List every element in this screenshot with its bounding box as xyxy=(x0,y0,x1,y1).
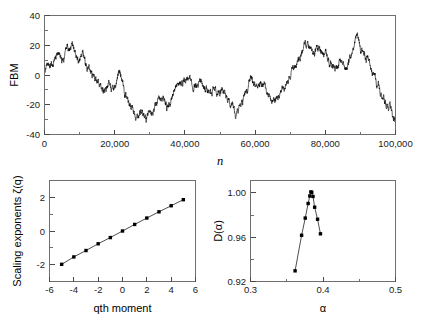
data-point xyxy=(60,263,63,266)
data-point xyxy=(293,269,296,272)
multifractal-figure: 40 20 0 -20 -40 0 20,000 40,000 xyxy=(0,0,421,334)
panel-fbm: 40 20 0 -20 -40 0 20,000 40,000 xyxy=(8,10,413,168)
zeta-ytick-2: 2 xyxy=(40,192,45,203)
fbm-yaxis-label: FBM xyxy=(8,63,20,86)
zeta-xtick-neg4: -4 xyxy=(70,284,78,295)
fbm-xtick-80000: 80,000 xyxy=(311,138,340,149)
fbm-ytick-0: 0 xyxy=(35,70,40,81)
dalpha-xtick-04: 0.4 xyxy=(316,284,329,295)
fbm-xtick-100000: 100,000 xyxy=(378,138,412,149)
data-point xyxy=(304,216,307,219)
dalpha-xaxis-label: α xyxy=(320,302,327,314)
fbm-ytick-neg40: -40 xyxy=(26,129,40,140)
data-point xyxy=(316,218,319,221)
zeta-y-ticks xyxy=(50,197,55,281)
data-point xyxy=(313,206,316,209)
fbm-xtick-0: 0 xyxy=(42,138,47,149)
fbm-y-ticks xyxy=(45,16,50,135)
data-point xyxy=(182,198,185,201)
data-point xyxy=(319,232,322,235)
data-point xyxy=(133,223,136,226)
zeta-xtick-neg2: -2 xyxy=(94,284,102,295)
zeta-xtick-2: 2 xyxy=(144,284,149,295)
zeta-ytick-0: 0 xyxy=(40,226,45,237)
data-point xyxy=(306,202,309,205)
fbm-trace-line xyxy=(45,33,396,123)
data-point xyxy=(84,249,87,252)
data-point xyxy=(145,216,148,219)
zeta-xtick-0: 0 xyxy=(120,284,125,295)
fbm-xtick-60000: 60,000 xyxy=(241,138,270,149)
panel-scaling-exponents: 2 0 -2 -6 -4 -2 0 2 4 6 qth moment Scali… xyxy=(11,175,198,314)
fbm-x-ticks xyxy=(45,130,396,135)
data-point xyxy=(72,255,75,258)
data-point xyxy=(310,191,313,194)
dalpha-data-markers xyxy=(293,190,322,272)
data-point xyxy=(121,229,124,232)
data-point xyxy=(311,195,314,198)
zeta-xaxis-label: qth moment xyxy=(93,302,151,314)
data-point xyxy=(96,242,99,245)
zeta-xtick-6: 6 xyxy=(193,284,198,295)
fbm-plot-frame xyxy=(45,16,396,135)
dalpha-ytick-100: 1.00 xyxy=(228,187,247,198)
fbm-ytick-20: 20 xyxy=(29,40,40,51)
dalpha-x-ticks xyxy=(251,277,396,282)
dalpha-y-ticks xyxy=(251,193,256,282)
zeta-ytick-neg2: -2 xyxy=(37,259,45,270)
fbm-ytick-neg20: -20 xyxy=(26,99,40,110)
dalpha-xtick-03: 0.3 xyxy=(244,284,257,295)
dalpha-plot-frame xyxy=(251,181,396,282)
data-point xyxy=(300,234,303,237)
dalpha-yaxis-label: D(α) xyxy=(212,220,224,242)
zeta-xtick-neg6: -6 xyxy=(45,284,53,295)
figure-container: 40 20 0 -20 -40 0 20,000 40,000 xyxy=(0,0,421,334)
dalpha-ytick-096: 0.96 xyxy=(228,232,247,243)
panel-multifractal-spectrum: 1.00 0.96 0.92 0.3 0.4 0.5 α D(α) xyxy=(212,181,402,315)
zeta-yaxis-label: Scaling exponents ζ(q) xyxy=(11,175,23,286)
zeta-xtick-4: 4 xyxy=(169,284,174,295)
data-point xyxy=(109,236,112,239)
zeta-x-ticks xyxy=(50,277,196,282)
fbm-xtick-20000: 20,000 xyxy=(100,138,129,149)
data-point xyxy=(169,204,172,207)
dalpha-xtick-05: 0.5 xyxy=(389,284,402,295)
fbm-xtick-40000: 40,000 xyxy=(170,138,199,149)
fbm-xaxis-label: n xyxy=(217,154,223,168)
fbm-ytick-40: 40 xyxy=(29,10,40,21)
data-point xyxy=(157,210,160,213)
data-point xyxy=(308,194,311,197)
